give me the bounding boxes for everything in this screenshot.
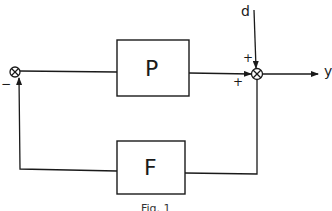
forward-line-to-sum: [189, 73, 251, 74]
feedback-line-left: [19, 78, 117, 171]
block-p-label: P: [145, 58, 158, 80]
left-minus-sign: −: [1, 78, 11, 90]
left-summing-junction: [10, 67, 20, 77]
feedback-line-right: [185, 80, 257, 175]
disturbance-arrow: [254, 10, 256, 68]
block-diagram: [0, 0, 332, 211]
forward-line-to-p: [20, 71, 117, 72]
block-f-label: F: [144, 157, 157, 179]
figure-caption: Fig. 1: [141, 203, 171, 211]
right-top-plus-sign: +: [243, 52, 253, 64]
disturbance-label: d: [241, 4, 250, 18]
output-label: y: [324, 64, 332, 78]
right-left-plus-sign: +: [233, 76, 243, 88]
right-summing-junction: [252, 69, 263, 80]
